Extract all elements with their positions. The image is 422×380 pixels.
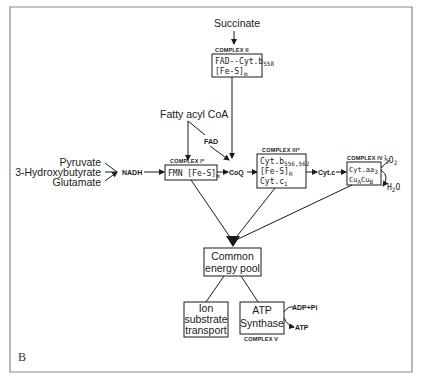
atp-label: ATP: [295, 324, 309, 331]
complex4-line2: CuACuB: [349, 176, 374, 185]
cytc-label: Cyt.c: [318, 169, 335, 177]
pool-arrowhead-icon: [226, 236, 240, 247]
complex3-to-pool-line: [234, 188, 275, 240]
pool-to-ion-line: [206, 276, 224, 302]
energy-pool-line1: Common: [211, 250, 254, 262]
complex2-line2: [Fe-S]m: [215, 67, 248, 77]
complex2-title: COMPLEX II: [215, 47, 249, 53]
respiratory-chain-diagram: Succinate COMPLEX II FAD--Cyt.b558 [Fe-S…: [0, 0, 422, 380]
atp-arrow: [284, 318, 294, 327]
h2o-arrow: [381, 170, 386, 186]
complex3-title: COMPLEX III*: [262, 147, 301, 153]
complex3-line2: [Fe-S]R: [260, 167, 293, 177]
atp-synthase-line2: Synthase: [240, 317, 284, 329]
complex5-title: COMPLEX V: [244, 336, 278, 342]
complex1-line1: FMN [Fe-S]m: [168, 169, 220, 179]
complex4-to-pool-line: [236, 185, 352, 240]
pyruvate-line: [105, 163, 117, 172]
h2o-label: H2O: [387, 183, 400, 193]
complex4-title: COMPLEX IV: [347, 155, 383, 161]
complex1-title: COMPLEX I*: [170, 158, 205, 164]
panel-label: B: [18, 350, 26, 364]
complex1-to-pool-line: [191, 180, 232, 240]
fad-label: FAD: [204, 138, 218, 145]
glutamate-label: Glutamate: [53, 176, 102, 188]
complex2-line1: FAD--Cyt.b558: [215, 57, 274, 67]
pool-to-atp-line: [241, 276, 258, 302]
coq-label: CoQ: [229, 169, 244, 177]
nadh-label: NADH: [122, 169, 142, 176]
energy-pool-line2: energy pool: [205, 262, 260, 274]
atp-synthase-line1: ATP: [252, 304, 272, 316]
succinate-label: Succinate: [214, 17, 260, 29]
o2-label: ½O2: [384, 155, 398, 166]
fatty-acyl-to-fad-line: [188, 121, 205, 135]
glutamate-line: [105, 172, 117, 181]
complex3-line3: Cyt.c1: [260, 177, 288, 187]
adp-pi-label: ADP+Pi: [292, 304, 318, 311]
complex4-line1: Cyt.aa3: [349, 166, 378, 175]
fad-to-coq-arrow: [210, 146, 229, 160]
fatty-acyl-coa-label: Fatty acyl CoA: [160, 108, 228, 120]
ion-transport-line3: transport: [185, 324, 227, 336]
